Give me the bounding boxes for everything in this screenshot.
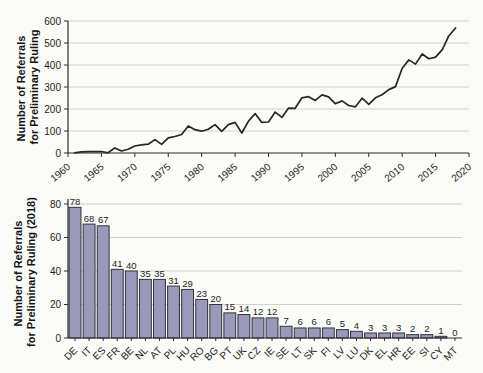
- bar-value-label: 14: [239, 303, 250, 314]
- bar-LU: [351, 331, 363, 338]
- bar-NL: [139, 279, 151, 338]
- bar-DE: [69, 207, 81, 338]
- x-tick-label: CZ: [245, 345, 262, 362]
- line-chart-y-axis-title-line2: for Preliminary Ruling: [28, 30, 40, 145]
- y-tick-label: 100: [44, 126, 61, 137]
- bar-value-label: 31: [168, 275, 179, 286]
- y-tick-label: 300: [44, 82, 61, 93]
- x-tick-label: 2005: [349, 161, 373, 184]
- bar-ES: [97, 226, 109, 338]
- y-tick-label: 40: [50, 266, 62, 277]
- x-tick-label: SK: [301, 344, 318, 361]
- x-tick-label: 2010: [382, 161, 406, 184]
- bar-AT: [154, 279, 166, 338]
- bar-PT: [224, 313, 236, 338]
- y-tick-label: 20: [50, 299, 62, 310]
- bar-chart-y-axis-title-line1: Number of Referrals: [12, 221, 24, 327]
- x-tick-label: 1995: [282, 161, 306, 184]
- bar-value-label: 0: [452, 327, 457, 338]
- bar-value-label: 67: [98, 214, 109, 225]
- bar-HR: [393, 333, 405, 338]
- line-chart: Number of Referrals for Preliminary Ruli…: [0, 0, 483, 186]
- bar-EL: [379, 333, 391, 338]
- x-tick-label: 2020: [449, 161, 473, 184]
- y-tick-label: 0: [55, 333, 61, 344]
- bar-chart-y-axis-title-line2: for Preliminary Ruling (2018): [25, 197, 37, 347]
- x-tick-label: 1960: [48, 161, 72, 184]
- x-tick-label: 1975: [148, 161, 172, 184]
- x-tick-label: SE: [273, 344, 290, 361]
- bar-value-label: 29: [182, 278, 193, 289]
- y-tick-label: 400: [44, 60, 61, 71]
- x-tick-label: 2015: [416, 161, 440, 184]
- bar-LT: [294, 328, 306, 338]
- x-tick-label: 1970: [115, 161, 139, 184]
- bar-value-label: 35: [154, 268, 165, 279]
- bar-value-label: 5: [340, 318, 345, 329]
- bar-value-label: 4: [354, 320, 359, 331]
- line-chart-y-axis-title-line1: Number of Referrals: [15, 36, 27, 142]
- bar-RO: [196, 299, 208, 338]
- bar-value-label: 3: [382, 322, 387, 333]
- bar-BG: [210, 305, 222, 339]
- x-tick-label: DE: [62, 344, 80, 362]
- x-tick-label: 1965: [82, 161, 106, 184]
- bar-value-label: 23: [196, 288, 207, 299]
- bar-value-label: 6: [298, 316, 303, 327]
- bar-value-label: 6: [312, 316, 317, 327]
- referrals-line-series: [75, 28, 456, 153]
- y-tick-label: 80: [50, 199, 62, 210]
- x-tick-label: 2000: [316, 161, 340, 184]
- bar-value-label: 41: [112, 258, 123, 269]
- y-tick-label: 200: [44, 104, 61, 115]
- bar-SK: [308, 328, 320, 338]
- bar-chart: Number of Referrals for Preliminary Ruli…: [0, 186, 483, 373]
- bar-UK: [238, 315, 250, 338]
- bar-DK: [365, 333, 377, 338]
- bar-IE: [266, 318, 278, 338]
- x-tick-label: EE: [400, 344, 417, 361]
- bar-value-label: 12: [267, 306, 278, 317]
- y-tick-label: 500: [44, 38, 61, 49]
- bar-value-label: 6: [326, 316, 331, 327]
- bar-value-label: 3: [396, 322, 401, 333]
- bar-BE: [125, 271, 137, 338]
- bar-value-label: 12: [253, 306, 264, 317]
- bar-value-label: 2: [410, 323, 415, 334]
- bar-CZ: [252, 318, 264, 338]
- bar-SE: [280, 326, 292, 338]
- bar-value-label: 15: [225, 301, 236, 312]
- x-tick-label: 1990: [249, 161, 273, 184]
- bar-value-label: 2: [424, 323, 429, 334]
- y-tick-label: 60: [50, 232, 62, 243]
- figure-page: Number of Referrals for Preliminary Ruli…: [0, 0, 483, 373]
- bar-value-label: 68: [84, 213, 95, 224]
- bar-value-label: 40: [126, 260, 137, 271]
- bar-value-label: 3: [368, 322, 373, 333]
- y-tick-label: 0: [55, 148, 61, 159]
- bar-FI: [322, 328, 334, 338]
- bar-chart-plot-area: 02040608078DE68IT67ES41FR40BE35NL35AT31P…: [50, 196, 462, 363]
- bar-value-label: 78: [70, 196, 81, 207]
- bar-value-label: 35: [140, 268, 151, 279]
- bar-PL: [168, 286, 180, 338]
- x-tick-label: 1980: [182, 161, 206, 184]
- x-tick-label: 1985: [215, 161, 239, 184]
- bar-value-label: 20: [210, 293, 221, 304]
- line-chart-plot-area: 0100200300400500600196019651970197519801…: [44, 16, 473, 184]
- bar-HU: [182, 289, 194, 338]
- bar-chart-y-axis-title: Number of Referrals for Preliminary Ruli…: [12, 197, 37, 347]
- y-tick-label: 600: [44, 16, 61, 27]
- bar-FR: [111, 269, 123, 338]
- bar-value-label: 1: [438, 325, 443, 336]
- bar-value-label: 7: [283, 315, 288, 326]
- line-chart-y-axis-title: Number of Referrals for Preliminary Ruli…: [15, 30, 40, 145]
- bar-LV: [336, 330, 348, 338]
- bar-IT: [83, 224, 95, 338]
- x-tick-label: MT: [441, 345, 459, 363]
